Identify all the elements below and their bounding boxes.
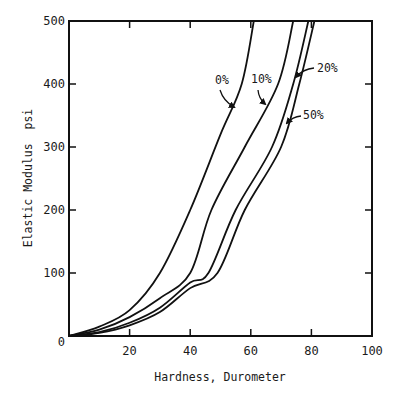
x-tick-label: 60: [244, 344, 258, 358]
series-curve-50pct: [69, 21, 314, 336]
chart: 204060801000100200300400500 0%10%20%50% …: [0, 0, 395, 400]
arrow-icon: [258, 90, 265, 104]
data-series: [69, 21, 314, 336]
series-curve-0pct: [69, 21, 254, 336]
y-tick-label: 500: [43, 14, 65, 28]
series-annotations: 0%10%20%50%: [215, 61, 338, 123]
series-label: 20%: [317, 61, 338, 75]
y-tick-label: 200: [43, 203, 65, 217]
x-tick-label: 20: [122, 344, 136, 358]
x-tick-label: 80: [304, 344, 318, 358]
x-tick-label: 40: [183, 344, 197, 358]
y-tick-label: 0: [58, 335, 65, 349]
series-label: 10%: [251, 72, 272, 86]
series-label: 50%: [303, 108, 324, 122]
series-label: 0%: [215, 73, 229, 87]
y-tick-label: 300: [43, 140, 65, 154]
arrow-icon: [220, 90, 234, 107]
y-tick-label: 400: [43, 77, 65, 91]
x-tick-label: 100: [361, 344, 383, 358]
y-tick-label: 100: [43, 266, 65, 280]
x-axis-label: Hardness, Durometer: [154, 370, 286, 384]
series-curve-10pct: [69, 21, 293, 336]
y-axis-label: Elastic Modulus psi: [21, 109, 35, 248]
arrow-icon: [296, 68, 314, 77]
